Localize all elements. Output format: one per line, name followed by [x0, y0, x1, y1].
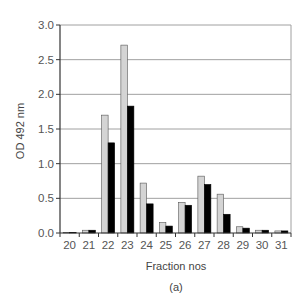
y-tick-label: 3.0	[38, 19, 54, 31]
bar-series-dark-25	[166, 226, 173, 233]
x-tick-label: 22	[102, 239, 115, 251]
x-tick-label: 29	[236, 239, 249, 251]
bar-series-light-25	[159, 223, 166, 233]
y-tick-label: 2.0	[38, 88, 54, 100]
bar-series-dark-29	[243, 228, 250, 233]
bar-series-light-28	[217, 194, 224, 233]
bar-series-dark-24	[147, 204, 154, 233]
y-tick-label: 0.0	[38, 227, 54, 239]
bar-series-dark-28	[224, 214, 231, 233]
x-tick-label: 21	[82, 239, 95, 251]
x-tick-label: 24	[140, 239, 153, 251]
x-tick-label: 25	[159, 239, 172, 251]
x-tick-label: 30	[256, 239, 269, 251]
bar-series-light-24	[140, 183, 147, 233]
x-tick-label: 27	[198, 239, 211, 251]
figure-caption: (a)	[169, 281, 182, 293]
bar-series-light-27	[198, 176, 205, 233]
y-tick-label: 1.0	[38, 158, 54, 170]
bar-series-light-22	[102, 115, 109, 233]
x-tick-label: 31	[275, 239, 288, 251]
y-axis-title: OD 492 nm	[14, 103, 26, 159]
x-tick-labels: 202122232425262728293031	[60, 233, 291, 251]
bar-series-dark-22	[108, 143, 115, 233]
bar-chart: 0.00.51.01.52.02.53.0 202122232425262728…	[0, 0, 308, 306]
bar-series-light-29	[236, 227, 243, 233]
bar-series-dark-27	[204, 184, 211, 233]
y-tick-label: 0.5	[38, 192, 54, 204]
bars	[63, 45, 288, 233]
y-tick-label: 1.5	[38, 123, 54, 135]
x-tick-label: 20	[63, 239, 76, 251]
x-axis-title: Fraction nos	[146, 260, 207, 272]
gridlines	[60, 25, 291, 233]
bar-series-light-23	[121, 45, 128, 233]
x-tick-label: 26	[179, 239, 192, 251]
bar-series-light-26	[179, 202, 186, 233]
bar-series-dark-26	[185, 205, 192, 233]
x-tick-label: 23	[121, 239, 134, 251]
bar-series-dark-23	[127, 106, 134, 233]
y-tick-label: 2.5	[38, 54, 54, 66]
y-tick-labels: 0.00.51.01.52.02.53.0	[38, 19, 60, 239]
x-tick-label: 28	[217, 239, 230, 251]
